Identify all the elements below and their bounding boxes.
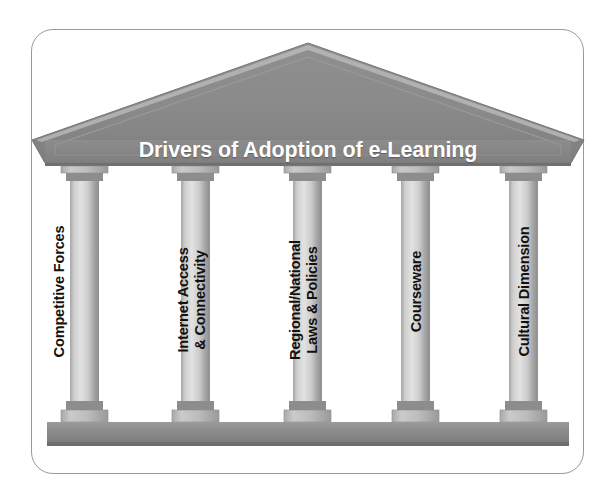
column-capitals [61, 166, 547, 181]
pillar-label-line1: Competitive Forces [51, 226, 67, 358]
pillar-label-line2: & Connectivity [192, 195, 209, 405]
pillar-label-line1: Cultural Dimension [516, 226, 532, 356]
diagram-canvas: Drivers of Adoption of e-Learning Compet… [0, 0, 616, 503]
pillar-label-line2: Laws & Policies [304, 195, 321, 405]
temple-floor [47, 422, 569, 446]
pillar-label-internet-access-connectivity: Internet Access & Connectivity [175, 195, 209, 405]
pillar-label-line1: Internet Access [175, 247, 191, 352]
pillar-label-courseware: Courseware [408, 187, 425, 397]
pillar-label-cultural-dimension: Cultural Dimension [516, 187, 533, 397]
pillar-label-competitive-forces: Competitive Forces [51, 187, 68, 397]
entablature-band [45, 140, 571, 163]
pillar-label-line1: Courseware [408, 251, 424, 333]
pillar-label-line1: Regional/National [287, 240, 303, 360]
pillar-label-regional-national-laws-policies: Regional/National Laws & Policies [287, 195, 321, 405]
